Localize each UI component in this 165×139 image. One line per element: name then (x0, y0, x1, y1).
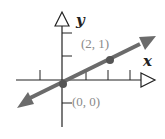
x-axis-arrow-icon (141, 73, 155, 87)
y-axis-arrow-icon (55, 12, 69, 26)
point-2-1 (106, 56, 114, 64)
y-axis (55, 12, 72, 127)
point-origin (59, 80, 67, 88)
point-label-origin: (0, 0) (72, 94, 100, 109)
coordinate-plane: y x (2, 1) (0, 0) (0, 0, 165, 139)
y-axis-label: y (75, 11, 86, 29)
point-label-2-1: (2, 1) (81, 36, 109, 51)
x-axis-label: x (142, 52, 153, 70)
line-arrow-right-icon (139, 36, 156, 50)
line-arrow-left-icon (17, 92, 34, 108)
